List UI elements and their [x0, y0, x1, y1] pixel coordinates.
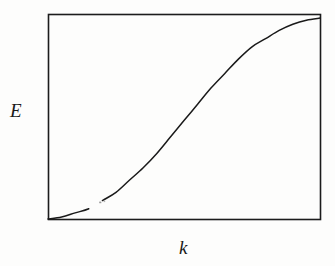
- dispersion-curve-segment-left: [48, 209, 89, 219]
- plot-frame: [49, 15, 321, 220]
- curve-break-speck-b: [104, 201, 106, 203]
- dispersion-curve: [48, 18, 320, 219]
- curve-break-speck-a: [99, 202, 101, 204]
- dispersion-curve-segment-right: [102, 18, 320, 200]
- x-axis-label: k: [179, 238, 188, 257]
- figure-container: E k: [0, 0, 335, 266]
- y-axis-label: E: [10, 101, 22, 120]
- plot-canvas: [0, 0, 335, 266]
